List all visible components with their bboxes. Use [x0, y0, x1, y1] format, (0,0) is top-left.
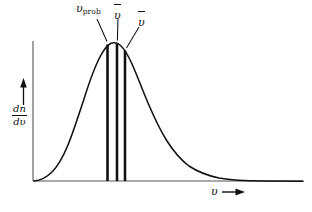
distribution-plot — [0, 0, 312, 212]
overbar-icon — [114, 4, 121, 5]
x-axis-label: υ — [211, 186, 218, 197]
label-v-mean-base: υ — [138, 17, 145, 28]
leader-line-v-mean — [127, 27, 140, 48]
overbar-accent-v-rms: υ — [114, 3, 121, 22]
y-axis-label-denominator: dυ — [12, 116, 27, 127]
x-axis-label-text: υ — [211, 185, 218, 198]
y-axis-label: dn dυ — [12, 103, 27, 127]
y-axis-arrow-icon — [20, 78, 27, 105]
label-v-mean: υ — [138, 10, 145, 29]
leader-line-v-prob — [97, 19, 107, 42]
label-v-prob: υprob — [76, 3, 101, 16]
distribution-curve — [34, 43, 303, 182]
label-v-rms: υ — [114, 3, 121, 22]
x-axis-arrow-icon — [222, 188, 245, 195]
y-axis-label-numerator: dn — [12, 103, 27, 114]
leader-line-v-rms — [117, 19, 118, 41]
overbar-accent-v-mean: υ — [138, 10, 145, 29]
label-v-prob-base: υ — [76, 2, 83, 15]
overbar-icon — [138, 11, 145, 12]
label-v-rms-base: υ — [114, 10, 121, 21]
maxwell-boltzmann-figure: υprob υ υ dn dυ υ — [0, 0, 312, 212]
label-v-prob-subscript: prob — [83, 7, 101, 16]
